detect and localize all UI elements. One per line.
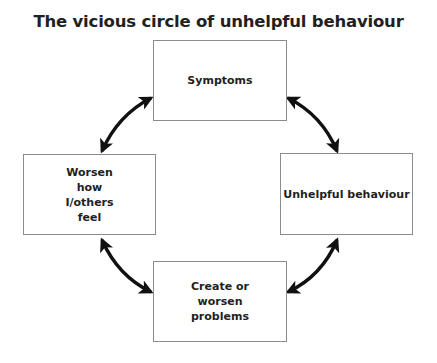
arrow-left-top [102, 98, 151, 151]
node-label: Create or worsen problems [172, 279, 268, 324]
node-symptoms: Symptoms [153, 40, 287, 121]
node-create-or-worsen-problems: Create or worsen problems [153, 261, 287, 342]
node-worsen-how-i-others-feel: Worsen how I/others feel [23, 154, 156, 235]
node-label: Symptoms [187, 73, 252, 88]
arrow-top-right [288, 98, 337, 151]
node-unhelpful-behaviour: Unhelpful behaviour [280, 153, 413, 235]
arrow-right-bottom [288, 240, 337, 292]
node-label: Worsen how I/others feel [52, 165, 127, 225]
node-label: Unhelpful behaviour [283, 187, 409, 202]
arrow-bottom-left [102, 240, 151, 292]
